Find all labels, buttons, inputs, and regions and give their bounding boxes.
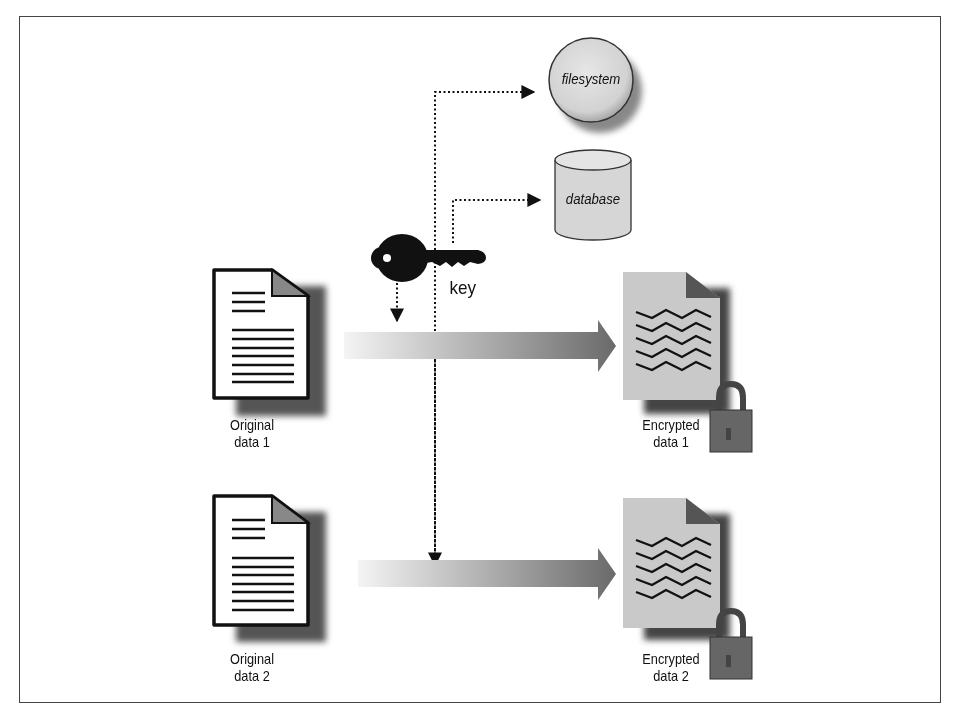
encrypt-arrow-1 (344, 320, 616, 372)
key-distribution-lines (397, 92, 540, 565)
encrypted-document-1 (623, 272, 730, 414)
original-document-1 (214, 270, 326, 416)
original-document-2 (214, 496, 326, 642)
label-line: data 1 (633, 433, 710, 450)
label-line: data 2 (633, 667, 710, 684)
encryption-diagram (0, 0, 961, 720)
label-line: Original (214, 650, 291, 667)
label-line: data 1 (214, 433, 291, 450)
encrypt-arrow-2 (358, 548, 616, 600)
lock-icon-1 (710, 384, 752, 452)
key-label: key (449, 277, 476, 299)
label-line: Encrypted (633, 650, 710, 667)
key-icon (371, 234, 486, 282)
lock-icon-2 (710, 611, 752, 679)
original-data-1-label: Original data 1 (214, 416, 291, 450)
encrypted-data-1-label: Encrypted data 1 (633, 416, 710, 450)
filesystem-label: filesystem (553, 70, 629, 87)
original-data-2-label: Original data 2 (214, 650, 291, 684)
label-line: Encrypted (633, 416, 710, 433)
encrypted-data-2-label: Encrypted data 2 (633, 650, 710, 684)
database-label: database (558, 190, 628, 207)
label-line: data 2 (214, 667, 291, 684)
encrypted-document-2 (623, 498, 730, 640)
label-line: Original (214, 416, 291, 433)
